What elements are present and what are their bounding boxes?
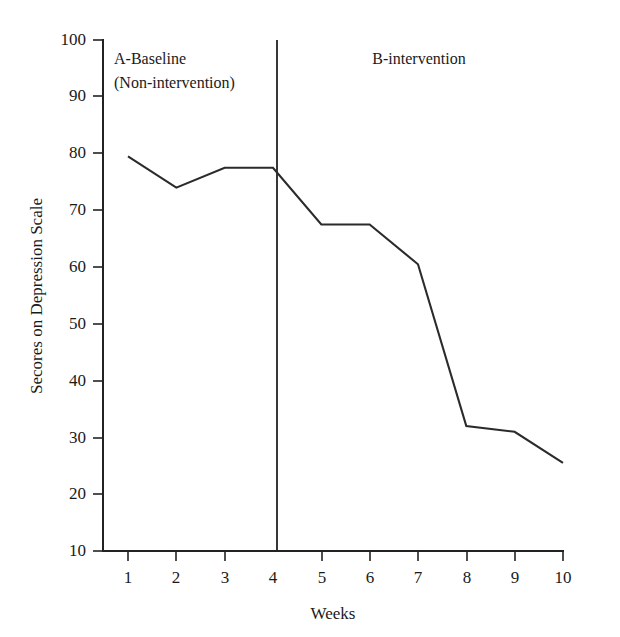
x-tick-label: 4	[269, 568, 278, 587]
y-tick-label: 90	[69, 86, 86, 105]
phase-a-label-line2: (Non-intervention)	[114, 74, 235, 92]
x-tick-label: 7	[414, 568, 423, 587]
y-tick-label: 50	[69, 314, 86, 333]
y-tick-label: 60	[69, 257, 86, 276]
y-tick-label: 10	[69, 541, 86, 560]
x-tick-label: 3	[221, 568, 230, 587]
x-axis-title: Weeks	[311, 604, 356, 623]
y-tick-label: 30	[69, 428, 86, 447]
phase-b-annotation: B-intervention	[372, 50, 465, 67]
x-tick-label: 10	[555, 568, 572, 587]
y-tick-label: 100	[61, 30, 87, 49]
y-tick-label: 80	[69, 143, 86, 162]
x-tick-label: 8	[463, 568, 472, 587]
phase-a-label-line1: A-Baseline	[114, 50, 186, 67]
y-tick-label: 20	[69, 484, 86, 503]
phase-b-label: B-intervention	[372, 50, 465, 67]
y-tick-label: 70	[69, 200, 86, 219]
x-tick-label: 2	[172, 568, 181, 587]
chart-container: 100 90 80 70 60 50 40 30 20 10 1 2	[0, 0, 620, 637]
x-tick-label: 5	[318, 568, 327, 587]
y-tick-label: 40	[69, 371, 86, 390]
x-tick-label: 6	[366, 568, 375, 587]
x-tick-label: 1	[124, 568, 133, 587]
x-tick-label: 9	[511, 568, 520, 587]
y-axis-title: Secores on Depression Scale	[27, 198, 46, 394]
line-chart: 100 90 80 70 60 50 40 30 20 10 1 2	[0, 0, 620, 637]
